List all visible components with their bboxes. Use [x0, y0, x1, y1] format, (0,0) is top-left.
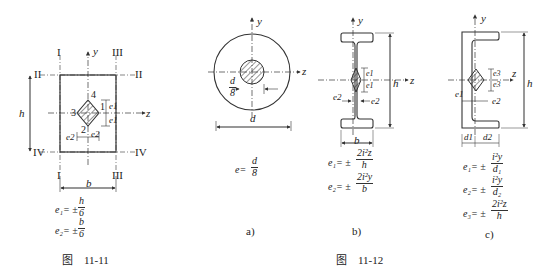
d1-label: d1: [464, 133, 473, 142]
core-diamond: [351, 68, 361, 92]
z-axis-label: z: [512, 68, 516, 79]
formula-fraction: i²yd₂: [491, 175, 503, 197]
e2-label: e2: [333, 93, 342, 102]
section-line-label: IV: [33, 147, 45, 158]
core-diamond: [468, 69, 484, 91]
section-line-label: II: [34, 69, 41, 80]
section-line-label: IV: [135, 147, 147, 158]
section-line-label: II: [135, 69, 142, 80]
formula-lhs: e₁= ±: [328, 158, 351, 168]
e3-label: e3: [493, 70, 501, 78]
e2-label: e2: [66, 133, 75, 142]
d2-label: d2: [483, 133, 492, 142]
core-radius-fraction: d8: [229, 76, 236, 98]
e2-label: e2: [492, 97, 501, 106]
point-label: 4: [91, 90, 96, 100]
y-axis-label: y: [93, 46, 98, 57]
subfigure-label: b): [352, 225, 361, 237]
section-line-label: I: [57, 47, 61, 58]
formula-fraction: i²yd₁: [491, 152, 503, 174]
formula-lhs: e₁= ±: [55, 205, 78, 215]
height-label: h: [527, 78, 533, 89]
height-label: h: [393, 78, 399, 89]
e3-label: e3: [493, 81, 501, 89]
formula-fraction: h6: [78, 196, 85, 218]
formula-fraction: 2i²zh: [491, 199, 508, 221]
fig-11-11-drawing: [30, 52, 145, 192]
width-label: b: [354, 135, 360, 146]
fig-11-12c-drawing: [448, 15, 528, 147]
e1-label: e1: [109, 102, 118, 111]
figure-caption: 图 11-12: [336, 251, 383, 267]
point-label: 1: [100, 102, 105, 112]
e2-label: e2: [371, 97, 380, 106]
formula-lhs: e₂= ±: [55, 226, 78, 236]
e2-label: e2: [91, 130, 100, 139]
y-axis-label: y: [358, 15, 363, 26]
y-axis-label: y: [481, 13, 486, 24]
formula-lhs: e₂= ±: [328, 182, 351, 192]
formula-fraction: 2i²yb: [356, 172, 373, 194]
z-axis-label: z: [146, 108, 150, 119]
e1-label: e1: [455, 90, 464, 99]
formula-fraction: 2i²zh: [356, 148, 373, 170]
diameter-label: d: [250, 113, 256, 124]
width-label: b: [86, 178, 92, 189]
subfigure-label: c): [485, 228, 494, 240]
subfigure-label: a): [246, 225, 255, 237]
section-line-label: III: [112, 47, 123, 58]
z-axis-label: z: [302, 66, 306, 77]
formula-fraction: b6: [78, 217, 85, 239]
formula-lhs: e₂= ±: [463, 185, 486, 195]
core-diamond: [77, 100, 99, 126]
point-label: 3: [71, 108, 76, 118]
formula-lhs: e=: [235, 165, 246, 175]
height-label: h: [19, 108, 25, 119]
y-axis-label: y: [257, 16, 262, 27]
e1-label: e1: [109, 116, 118, 125]
formula-lhs: e₃= ±: [463, 209, 486, 219]
z-axis-label: z: [410, 75, 414, 86]
e1-label: e1: [366, 70, 374, 78]
point-label: 2: [81, 125, 86, 135]
e1-label: e1: [366, 82, 374, 90]
formula-lhs: e₁= ±: [463, 162, 486, 172]
section-line-label: I: [57, 170, 61, 181]
section-line-label: III: [112, 170, 123, 181]
formula-fraction: d8: [251, 156, 258, 178]
figure-caption: 图 11-11: [62, 251, 109, 267]
